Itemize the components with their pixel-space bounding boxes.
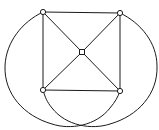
edge-top <box>43 12 120 13</box>
edge-diagonal-bl <box>43 52 82 90</box>
graph-svg <box>0 0 159 130</box>
node-top-left <box>40 9 45 14</box>
graph-diagram <box>0 0 159 130</box>
node-center <box>80 50 85 55</box>
node-top-right <box>117 10 122 15</box>
edge-diagonal-br <box>82 52 120 91</box>
edge-bottom <box>43 90 120 91</box>
edge-arc-left <box>5 12 120 127</box>
edge-diagonal-tl <box>43 12 82 52</box>
node-bottom-left <box>40 87 45 92</box>
node-bottom-right <box>117 88 122 93</box>
edge-diagonal-tr <box>82 13 120 52</box>
